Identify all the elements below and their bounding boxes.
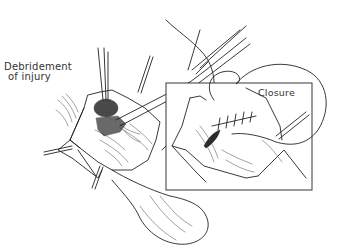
- label-debridement-line2: of injury: [4, 72, 72, 82]
- inset-closure: [166, 83, 312, 190]
- label-closure: Closure: [258, 88, 295, 98]
- injured-tissue: [94, 99, 140, 142]
- surgical-drawing: [0, 0, 341, 252]
- label-debridement: Debridement of injury: [4, 62, 72, 82]
- illustration-canvas: Debridement of injury Closure: [0, 0, 341, 252]
